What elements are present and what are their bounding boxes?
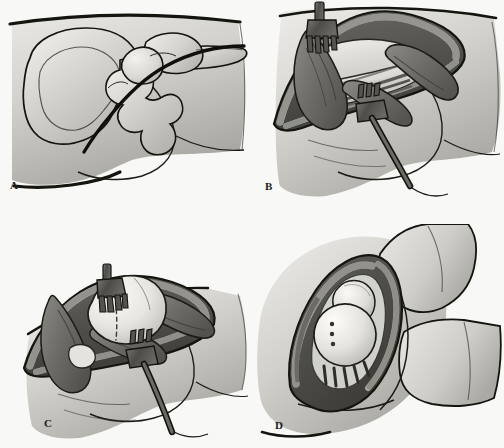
implant-marker-dot [331,342,335,346]
panel-label-d: D [275,420,283,431]
panel-label-a: A [10,180,18,191]
implant-marker-dot [330,322,334,326]
rake-retractor-superior-c[interactable] [97,264,128,312]
lower-leg [399,320,501,407]
panel-c: C [0,224,252,448]
panel-label-c: C [44,418,52,429]
panel-a: A [0,0,252,224]
panel-d: D [252,224,504,448]
lower-limb-contour-c [174,432,208,437]
lower-limb-contour [412,188,448,196]
panel-label-b: B [265,181,273,192]
lesser-trochanter [69,345,96,368]
surgical-figure: A [0,0,504,448]
prosthetic-femoral-head [314,304,376,366]
implant-marker-dot [330,332,334,336]
panel-b: B [252,0,504,224]
